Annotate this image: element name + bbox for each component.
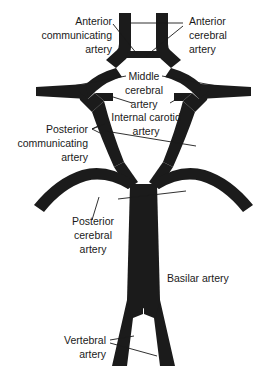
label-middle-cerebral-line1: Middle — [129, 70, 160, 82]
label-anterior-cerebral-line3: artery — [189, 43, 217, 55]
label-basilar-line1: Basilar artery — [167, 272, 230, 284]
posterior-cerebral-artery-right — [153, 168, 253, 212]
label-anterior-communicating-line3: artery — [85, 43, 113, 55]
diagram-page: Anterior communicating artery Anterior c… — [0, 0, 275, 372]
leader-internal-carotid-left — [110, 96, 132, 103]
label-anterior-communicating-line2: communicating — [41, 29, 112, 41]
posterior-cerebral-artery-left — [34, 168, 134, 212]
label-posterior-communicating-line3: artery — [61, 151, 89, 163]
label-posterior-cerebral-line3: artery — [80, 243, 108, 255]
label-internal-carotid-line2: artery — [133, 125, 161, 137]
anterior-communicating-artery — [126, 51, 161, 58]
label-internal-carotid-line1: Internal carotid — [111, 111, 181, 123]
label-middle-cerebral-line3: artery — [131, 98, 159, 110]
label-anterior-cerebral-line2: cerebral — [189, 29, 227, 41]
anterior-cerebral-artery-right — [156, 13, 181, 68]
basilar-artery — [127, 184, 160, 300]
vessel-group — [34, 13, 253, 366]
label-posterior-cerebral-line2: cerebral — [74, 229, 112, 241]
label-posterior-cerebral-line1: Posterior — [72, 215, 115, 227]
label-posterior-communicating-line1: Posterior — [46, 123, 89, 135]
circle-of-willis-diagram: Anterior communicating artery Anterior c… — [0, 0, 275, 372]
label-anterior-cerebral-line1: Anterior — [189, 15, 226, 27]
label-anterior-communicating-line1: Anterior — [75, 15, 112, 27]
label-posterior-communicating-line2: communicating — [17, 137, 88, 149]
label-group: Anterior communicating artery Anterior c… — [17, 15, 229, 360]
label-vertebral-line1: Vertebral — [64, 334, 106, 346]
basilar-bifurcation — [127, 300, 160, 316]
label-middle-cerebral-line2: cerebral — [125, 84, 163, 96]
label-vertebral-line2: artery — [79, 348, 107, 360]
